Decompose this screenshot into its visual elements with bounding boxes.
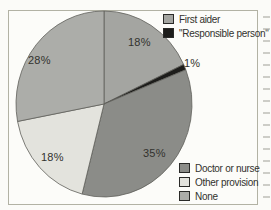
- pie-chart-figure: 18% 1% 35% 18% 28% First aider "Responsi…: [0, 0, 271, 210]
- slice-label-doctor-or-nurse: 35%: [143, 147, 166, 159]
- legend-swatch-responsible-person: [163, 28, 174, 38]
- legend-label-other-provision: Other provision: [195, 177, 258, 188]
- pie-slice: [16, 11, 104, 121]
- legend-item-responsible-person: "Responsible person": [163, 26, 269, 40]
- legend-label-doctor-or-nurse: Doctor or nurse: [195, 163, 259, 174]
- scan-edge-artifacts: [263, 16, 270, 200]
- legend-label-responsible-person: "Responsible person": [179, 28, 269, 39]
- legend-label-first-aider: First aider: [179, 14, 220, 25]
- legend-swatch-other-provision: [179, 177, 190, 187]
- legend-bottom: Doctor or nurse Other provision None: [179, 161, 259, 203]
- legend-swatch-first-aider: [163, 14, 174, 24]
- legend-item-first-aider: First aider: [163, 12, 269, 26]
- legend-top: First aider "Responsible person": [163, 12, 269, 40]
- legend-item-doctor-or-nurse: Doctor or nurse: [179, 161, 259, 175]
- legend-swatch-none: [179, 191, 190, 201]
- legend-swatch-doctor-or-nurse: [179, 163, 190, 173]
- legend-item-none: None: [179, 189, 259, 203]
- legend-label-none: None: [195, 191, 218, 202]
- slice-label-other-provision: 18%: [41, 151, 64, 163]
- slice-label-none: 28%: [28, 54, 51, 66]
- legend-item-other-provision: Other provision: [179, 175, 259, 189]
- slice-label-responsible-person: 1%: [184, 57, 200, 69]
- slice-label-first-aider: 18%: [128, 36, 151, 48]
